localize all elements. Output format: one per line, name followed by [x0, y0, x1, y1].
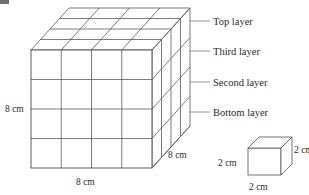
label-third-layer: Third layer: [213, 46, 260, 57]
width-dimension-label: 8 cm: [76, 177, 95, 187]
figure-canvas: 8 cm 8 cm 8 cm Top layer Third layer Sec…: [0, 0, 309, 195]
unit-cube-left-label: 2 cm: [218, 158, 237, 168]
large-cube: [31, 8, 190, 168]
unit-cube-front-face: [248, 148, 281, 175]
unit-cube: [248, 137, 292, 175]
cube-top-face: [31, 8, 190, 50]
height-dimension-label: 8 cm: [5, 104, 24, 114]
cube-right-face: [152, 8, 190, 168]
cube-diagram: 8 cm 8 cm 8 cm Top layer Third layer Sec…: [0, 0, 309, 195]
label-top-layer: Top layer: [213, 16, 253, 27]
depth-dimension-label: 8 cm: [168, 150, 187, 160]
callout-top-layer: Top layer: [190, 16, 253, 27]
label-second-layer: Second layer: [213, 77, 268, 88]
label-bottom-layer: Bottom layer: [213, 107, 269, 118]
unit-cube-right-label: 2 cm: [294, 145, 309, 155]
layer-callouts: Top layer Third layer Second layer Botto…: [190, 16, 269, 118]
callout-bottom-layer: Bottom layer: [190, 107, 269, 118]
unit-cube-bottom-label: 2 cm: [249, 182, 268, 192]
callout-third-layer: Third layer: [190, 46, 260, 57]
callout-second-layer: Second layer: [190, 77, 268, 88]
